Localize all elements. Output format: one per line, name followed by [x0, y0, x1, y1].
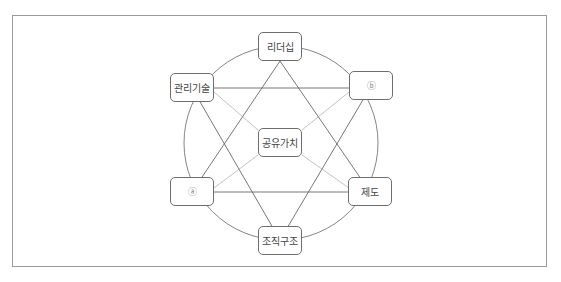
- node-b-blank: ⓑ: [349, 71, 393, 100]
- node-label: ⓑ: [367, 79, 376, 92]
- triangle-up: [192, 61, 370, 192]
- node-skill: 관리기술: [170, 73, 214, 102]
- node-shared-value-center: 공유가치: [258, 128, 302, 157]
- node-label: 제도: [361, 184, 379, 199]
- node-a-blank: ⓐ: [170, 177, 214, 206]
- node-label: 관리기술: [174, 80, 210, 95]
- node-label: 조직구조: [262, 233, 298, 248]
- node-structure: 조직구조: [258, 226, 302, 255]
- node-label: 리더십: [267, 39, 294, 54]
- node-system: 제도: [348, 177, 392, 206]
- node-label: ⓐ: [188, 185, 197, 198]
- node-label: 공유가치: [262, 135, 298, 150]
- node-leadership: 리더십: [258, 32, 302, 61]
